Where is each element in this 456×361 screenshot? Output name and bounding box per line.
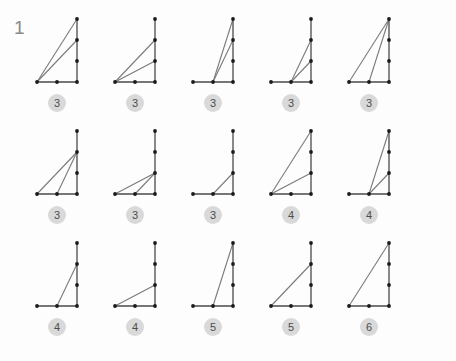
lattice-dot [191,304,195,308]
figure-cell: 5 [174,232,252,336]
lattice-figure [185,235,241,314]
figure-canvas [330,8,408,90]
lattice-dot [309,171,313,175]
lattice-dot [387,38,391,42]
figure-cell: 3 [330,8,408,112]
figure-cell: 3 [96,120,174,224]
lattice-figure [341,11,397,90]
lattice-dot [153,192,157,196]
lattice-dot [347,192,351,196]
lattice-figure [29,235,85,314]
lattice-dot [309,150,313,154]
count-badge: 3 [126,94,144,112]
lattice-dot [347,80,351,84]
lattice-dot [231,17,235,21]
lattice-dot [387,192,391,196]
lattice-dot [387,129,391,133]
lattice-dot [153,304,157,308]
lattice-figure [185,123,241,202]
lattice-dot [231,150,235,154]
figure-cell: 3 [252,8,330,112]
figure-canvas [330,120,408,202]
figure-chord [213,243,233,306]
lattice-dot [55,192,59,196]
figure-chord [369,19,389,82]
figure-canvas [174,8,252,90]
lattice-dot [231,262,235,266]
figure-chord [115,40,155,82]
lattice-figure [107,235,163,314]
lattice-dot [231,38,235,42]
lattice-dot [75,241,79,245]
figure-grid: 33333 33344 44556 [0,8,456,344]
lattice-dot [133,80,137,84]
figure-canvas [252,8,330,90]
figure-cell: 3 [96,8,174,112]
lattice-figure [263,235,319,314]
figure-chord [369,131,389,194]
count-badge: 3 [126,206,144,224]
lattice-dot [75,262,79,266]
lattice-dot [309,80,313,84]
lattice-dot [231,129,235,133]
figure-canvas [252,232,330,314]
figure-canvas [330,232,408,314]
lattice-dot [231,80,235,84]
lattice-dot [289,80,293,84]
figure-chord [271,173,311,194]
count-badge: 4 [282,206,300,224]
count-badge: 6 [360,318,378,336]
lattice-dot [367,80,371,84]
lattice-dot [309,241,313,245]
figure-chord [349,243,389,306]
lattice-dot [231,192,235,196]
figure-chord [37,40,77,82]
figure-chord [349,19,389,82]
figure-chord [115,285,155,306]
lattice-dot [75,80,79,84]
figure-canvas [18,8,96,90]
lattice-dot [55,304,59,308]
lattice-dot [75,304,79,308]
lattice-dot [211,80,215,84]
figure-cell: 4 [330,120,408,224]
figure-chord [271,264,311,306]
lattice-figure [263,123,319,202]
figure-cell: 4 [252,120,330,224]
figure-cell: 3 [18,8,96,112]
lattice-dot [133,192,137,196]
lattice-figure [185,11,241,90]
figure-canvas [96,120,174,202]
lattice-dot [153,171,157,175]
figure-cell: 6 [330,232,408,336]
figure-cell: 5 [252,232,330,336]
lattice-dot [309,304,313,308]
figure-chord [115,61,155,82]
lattice-dot [387,80,391,84]
lattice-dot [211,192,215,196]
lattice-dot [75,59,79,63]
figure-chord [57,264,77,306]
lattice-dot [153,129,157,133]
figure-cell: 3 [174,8,252,112]
figure-row: 33333 [0,8,456,120]
lattice-dot [309,38,313,42]
lattice-dot [153,150,157,154]
lattice-dot [387,150,391,154]
lattice-figure [263,11,319,90]
figure-canvas [18,232,96,314]
lattice-dot [231,241,235,245]
lattice-dot [309,129,313,133]
figure-chord [37,19,77,82]
lattice-dot [153,80,157,84]
lattice-dot [113,80,117,84]
figure-cell: 4 [18,232,96,336]
lattice-dot [269,192,273,196]
figure-canvas [18,120,96,202]
figure-chord [291,40,311,82]
count-badge: 4 [48,318,66,336]
lattice-dot [113,304,117,308]
lattice-dot [55,80,59,84]
lattice-dot [387,59,391,63]
lattice-dot [133,304,137,308]
